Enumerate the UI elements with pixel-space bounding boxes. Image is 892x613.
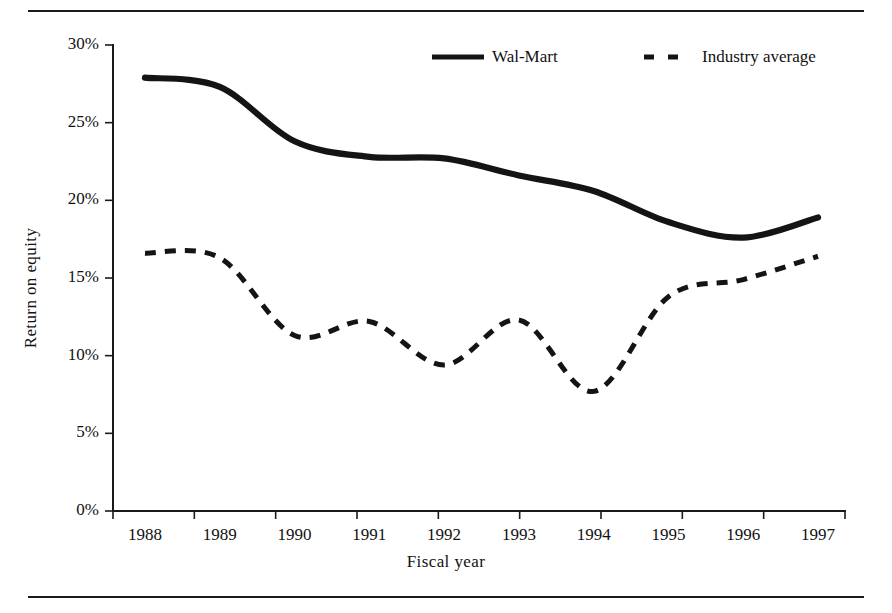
x-axis-tick-label: 1989 xyxy=(180,525,260,545)
x-axis-tick-label: 1988 xyxy=(105,525,185,545)
legend-label-industry-average: Industry average xyxy=(702,47,816,67)
series-line-wal-mart xyxy=(145,78,818,238)
axes-group xyxy=(105,45,845,519)
plot-area: 30%25%20%15%10%5%0% 19881989199019911992… xyxy=(0,0,892,613)
legend-swatch-solid-icon xyxy=(430,44,486,70)
chart-legend: Wal-Mart Industry average xyxy=(430,42,850,72)
legend-entry-wal-mart: Wal-Mart xyxy=(430,42,558,72)
x-axis-tick-label: 1995 xyxy=(628,525,708,545)
data-series-group xyxy=(145,78,818,392)
x-axis-tick-label: 1991 xyxy=(329,525,409,545)
x-axis-tick-label: 1993 xyxy=(479,525,559,545)
chart-canvas xyxy=(0,0,892,613)
y-axis-tick-label: 30% xyxy=(27,34,99,54)
series-line-industry-average xyxy=(145,250,818,391)
y-axis-tick-label: 0% xyxy=(27,500,99,520)
figure-container: 30%25%20%15%10%5%0% 19881989199019911992… xyxy=(0,0,892,613)
x-axis-tick-label: 1996 xyxy=(703,525,783,545)
x-axis-title: Fiscal year xyxy=(0,552,892,572)
y-axis-tick-label: 25% xyxy=(27,112,99,132)
legend-entry-industry-average: Industry average xyxy=(640,42,816,72)
legend-label-wal-mart: Wal-Mart xyxy=(492,47,558,67)
x-axis-tick-label: 1990 xyxy=(255,525,335,545)
x-axis-tick-label: 1994 xyxy=(554,525,634,545)
x-axis-tick-label: 1992 xyxy=(404,525,484,545)
legend-swatch-dashed-icon xyxy=(640,44,696,70)
x-axis-ticks xyxy=(113,511,845,519)
x-axis-tick-label: 1997 xyxy=(778,525,858,545)
y-axis-title: Return on equity xyxy=(21,203,41,373)
y-axis-tick-label: 5% xyxy=(27,422,99,442)
y-axis-ticks xyxy=(105,45,113,511)
